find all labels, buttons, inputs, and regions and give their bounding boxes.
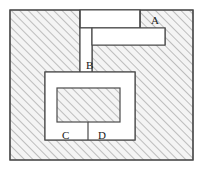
notch-region-a: [80, 10, 140, 28]
label-b: B: [86, 60, 93, 71]
figure-canvas: [0, 0, 202, 169]
notch-step-ledge: [92, 28, 165, 45]
inner-hatched-rect: [57, 88, 120, 122]
label-c: C: [62, 130, 69, 141]
label-d: D: [98, 130, 106, 141]
geometry-figure: A B C D: [0, 0, 202, 169]
label-a: A: [151, 15, 159, 26]
